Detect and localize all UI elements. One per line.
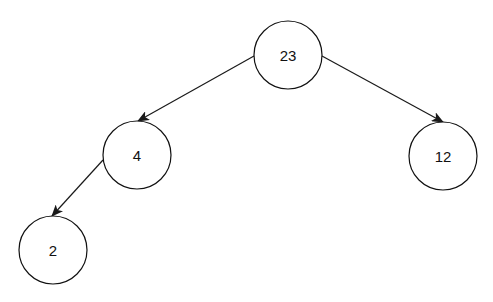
node-2: 2 (19, 216, 87, 284)
arrow-23-to-12 (322, 56, 443, 122)
arrow-23-to-4 (138, 56, 254, 121)
node-label: 2 (49, 242, 57, 259)
tree-diagram: 23 4 12 2 (0, 0, 493, 302)
node-label: 23 (280, 47, 297, 64)
node-23: 23 (254, 21, 322, 89)
edge-23-to-4 (138, 56, 254, 121)
edge-4-to-2 (52, 160, 103, 216)
edge-23-to-12 (322, 56, 443, 122)
node-label: 12 (435, 148, 452, 165)
node-12: 12 (409, 122, 477, 190)
node-label: 4 (133, 147, 141, 164)
node-4: 4 (103, 121, 171, 189)
arrow-4-to-2 (52, 160, 103, 216)
